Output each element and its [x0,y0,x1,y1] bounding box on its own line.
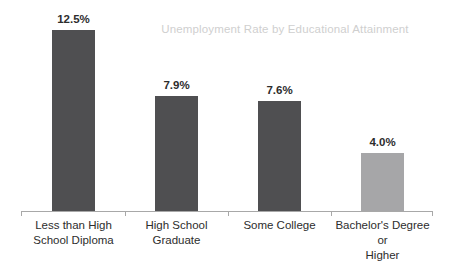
category-label: Less than HighSchool Diploma [22,218,125,248]
category-label-line: Less than High [22,218,125,233]
plot-area [0,0,449,212]
bar-value-label: 4.0% [348,136,418,148]
category-label-line: Higher [331,248,434,263]
category-label: Some College [228,218,331,233]
bar[interactable] [258,101,301,211]
x-axis-line [21,211,433,212]
category-label-line: Bachelor's Degree or [331,218,434,248]
category-label-line: School Diploma [22,233,125,248]
category-label-line: Some College [228,218,331,233]
bar[interactable] [155,96,198,211]
category-label: Bachelor's Degree orHigher [331,218,434,263]
bar-value-label: 12.5% [39,13,109,25]
bar-chart: Unemployment Rate by Educational Attainm… [0,0,449,265]
bar-value-label: 7.6% [245,84,315,96]
category-label-line: Graduate [125,233,228,248]
category-label-line: High School [125,218,228,233]
bar[interactable] [52,30,95,211]
bar[interactable] [361,153,404,211]
category-label: High SchoolGraduate [125,218,228,248]
bar-value-label: 7.9% [142,79,212,91]
